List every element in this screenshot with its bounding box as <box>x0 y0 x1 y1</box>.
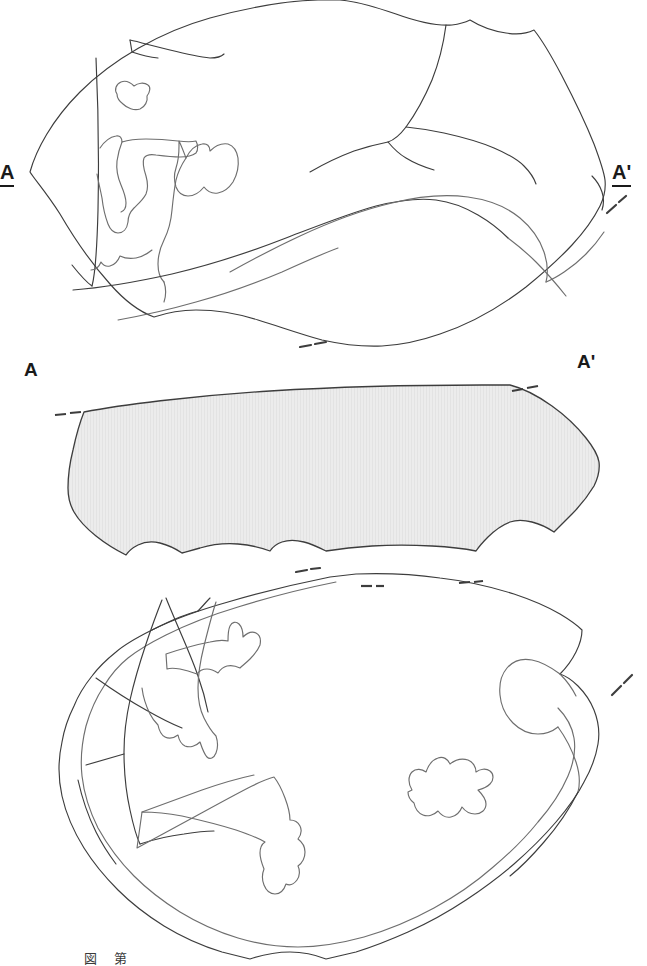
bottom-view-inner-rim <box>81 582 575 947</box>
top-view-scar-network-6 <box>164 282 166 302</box>
top-view-outline <box>30 0 605 346</box>
top-view-scar-blob-1 <box>116 81 150 109</box>
bottom-view-scar-upper-left <box>142 602 218 758</box>
bottom-view-right-edge-1 <box>558 727 579 792</box>
top-view-scar-network-4 <box>158 158 186 282</box>
bottom-view-right-oval <box>500 659 560 734</box>
bottom-view-figure <box>59 568 632 959</box>
section-label-top-right: A' <box>612 162 631 187</box>
bottom-view-left-facet <box>124 600 162 844</box>
top-view-right-facet-3 <box>310 142 388 172</box>
cross-section-figure <box>55 385 599 586</box>
top-view-right-tip-detail <box>592 176 604 210</box>
top-view-left-ridge <box>92 58 98 286</box>
caption-figure-number: 図 <box>84 951 98 966</box>
bottom-view-left-facet-4 <box>86 754 124 765</box>
top-view-right-facet-1 <box>388 25 446 170</box>
top-view-lower-facet <box>73 199 508 290</box>
top-view-upper-facet-edge <box>130 40 158 58</box>
top-view-figure <box>30 0 626 347</box>
bottom-view-left-facet-5 <box>140 831 214 844</box>
top-view-lower-facet-inner-4 <box>546 232 604 282</box>
bottom-view-outline <box>59 574 599 959</box>
section-label-top-left: A <box>0 162 14 187</box>
top-view-left-ridge-inner <box>72 265 92 286</box>
bottom-view-right-edge-3 <box>510 792 578 876</box>
top-view-scar-network-3 <box>175 141 239 196</box>
bottom-view-scar-arrow <box>166 622 260 674</box>
bottom-view-scar-triangle <box>137 777 305 894</box>
section-label-middle-left: A <box>24 360 38 379</box>
top-view-scar-network <box>97 136 198 233</box>
caption-text: 第 <box>114 951 128 966</box>
top-view-right-facet-2 <box>406 127 536 184</box>
top-view-lower-facet-inner-3 <box>508 238 566 296</box>
cross-section-body <box>68 385 599 555</box>
figure-page: A A' A A' 図第 <box>0 0 647 966</box>
bottom-view-scar-right <box>408 757 493 817</box>
top-view-section-ticks <box>300 196 626 347</box>
top-view-scar-network-2 <box>117 142 126 212</box>
section-label-middle-right: A' <box>577 352 595 371</box>
top-view-scar-network-5 <box>91 250 152 270</box>
top-view-lower-facet-inner-2 <box>230 196 547 282</box>
figure-caption: 図第 <box>84 948 604 966</box>
artifact-illustration-svg <box>0 0 647 966</box>
bottom-view-left-facet-6 <box>78 780 116 864</box>
bottom-view-left-facet-3 <box>96 678 182 728</box>
